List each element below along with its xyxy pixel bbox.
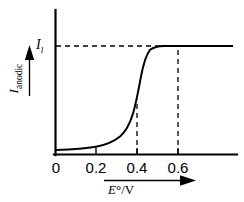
y-axis-symbol: I (6, 89, 21, 93)
limiting-current-subscript: l (41, 45, 44, 55)
y-axis-subscript: anodic (14, 64, 24, 89)
x-tick-label-0.2: 0.2 (81, 160, 111, 175)
x-tick-label-0: 0 (46, 160, 66, 175)
up-arrow-icon (25, 45, 34, 60)
anodic-wave-curve (56, 46, 164, 150)
right-arrow-icon (180, 175, 196, 186)
x-axis-title: E°/V (108, 183, 134, 196)
x-axis-symbol: E (108, 182, 116, 197)
x-tick-label-0.6: 0.6 (163, 160, 193, 175)
x-tick-label-0.4: 0.4 (122, 160, 152, 175)
polarization-curve-figure: Il Ianodic E°/V 0 0.2 0.4 0.6 (0, 0, 244, 202)
x-axis-units: °/V (116, 182, 134, 197)
y-axis-title: Ianodic (7, 41, 24, 117)
limiting-current-label: Il (36, 38, 43, 55)
